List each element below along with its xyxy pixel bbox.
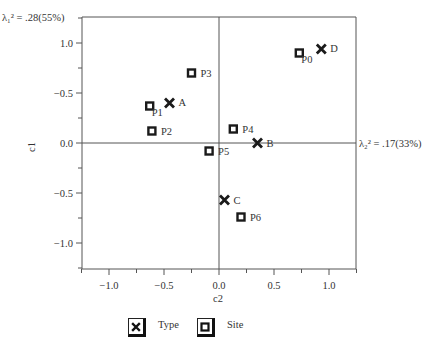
square-marker-icon xyxy=(197,318,215,337)
x-tick-label: 0.0 xyxy=(212,280,225,291)
legend-item-site: Site xyxy=(197,318,243,337)
x-tick-label: 1.0 xyxy=(322,280,335,291)
site-point: P3 xyxy=(188,68,212,79)
x-marker-icon xyxy=(166,100,173,107)
site-point: P4 xyxy=(230,124,254,135)
x-axis-label: c2 xyxy=(213,293,223,304)
square-marker-icon xyxy=(148,128,155,135)
biplot-chart: −1.0−0.50.00.51.01.0−0.50.0−0.5−1.0 ABCD… xyxy=(0,0,434,358)
horizontal-axis-eigenvalue-annotation: λ₂² = .17(33%) xyxy=(359,138,422,150)
y-tick-label: −1.0 xyxy=(54,238,73,249)
point-label: A xyxy=(179,97,187,108)
point-label: P4 xyxy=(242,124,254,135)
type-point: A xyxy=(166,97,187,108)
x-marker-icon xyxy=(221,197,228,204)
x-marker-icon xyxy=(128,318,146,337)
site-point: P0 xyxy=(296,50,313,66)
axes xyxy=(82,17,356,269)
site-point: P6 xyxy=(238,212,262,223)
point-label: P0 xyxy=(301,54,312,65)
type-point: D xyxy=(318,43,339,54)
point-label: C xyxy=(234,195,241,206)
legend-label-type: Type xyxy=(158,319,179,330)
x-tick-label: −0.5 xyxy=(154,280,173,291)
x-tick-label: 0.5 xyxy=(267,280,280,291)
y-tick-label: 0.0 xyxy=(60,138,73,149)
point-label: P3 xyxy=(201,68,212,79)
x-tick-label: −1.0 xyxy=(99,280,118,291)
point-label: P5 xyxy=(218,146,229,157)
y-tick-label: −0.5 xyxy=(54,188,73,199)
y-tick-label: 1.0 xyxy=(60,38,73,49)
point-label: B xyxy=(267,138,274,149)
site-point: P1 xyxy=(146,103,163,119)
type-point: C xyxy=(221,195,241,206)
site-point: P5 xyxy=(206,146,230,157)
y-tick-label: −0.5 xyxy=(54,88,73,99)
point-label: D xyxy=(330,43,338,54)
square-marker-icon xyxy=(206,148,213,155)
square-marker-icon xyxy=(238,214,245,221)
square-marker-icon xyxy=(188,70,195,77)
vertical-axis-eigenvalue-annotation: λ₁² = .28(55%) xyxy=(2,12,65,24)
legend: Type Site xyxy=(0,318,434,346)
data-points: ABCDP0P1P2P3P4P5P6 xyxy=(146,43,338,223)
point-label: P1 xyxy=(152,107,163,118)
legend-item-type: Type xyxy=(128,318,179,337)
x-marker-icon xyxy=(318,46,325,53)
point-label: P2 xyxy=(161,126,172,137)
legend-label-site: Site xyxy=(227,319,243,330)
y-axis-label: c1 xyxy=(26,142,37,152)
site-point: P2 xyxy=(148,126,172,137)
square-marker-icon xyxy=(230,126,237,133)
point-label: P6 xyxy=(250,212,261,223)
